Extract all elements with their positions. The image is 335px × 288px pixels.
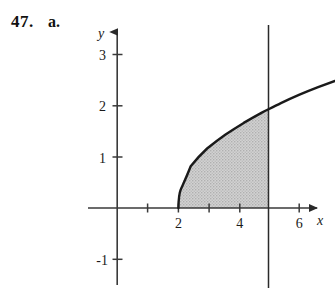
x-tick-label-6: 6: [296, 216, 303, 231]
y-tick-label-1: 1: [99, 151, 106, 166]
shaded-region: [178, 109, 268, 208]
x-tick-label-2: 2: [175, 216, 182, 231]
figure-page: 47. a.: [0, 0, 335, 288]
x-tick-label-4: 4: [236, 216, 243, 231]
y-tick-label-3: 3: [99, 48, 106, 63]
y-tick-label-minus-1: -1: [96, 253, 108, 268]
graph-figure: y x 2 4 6 3 2 1 -1: [0, 0, 335, 288]
y-tick-label-2: 2: [99, 99, 106, 114]
x-axis-label: x: [316, 213, 324, 228]
y-axis-label: y: [96, 26, 105, 41]
